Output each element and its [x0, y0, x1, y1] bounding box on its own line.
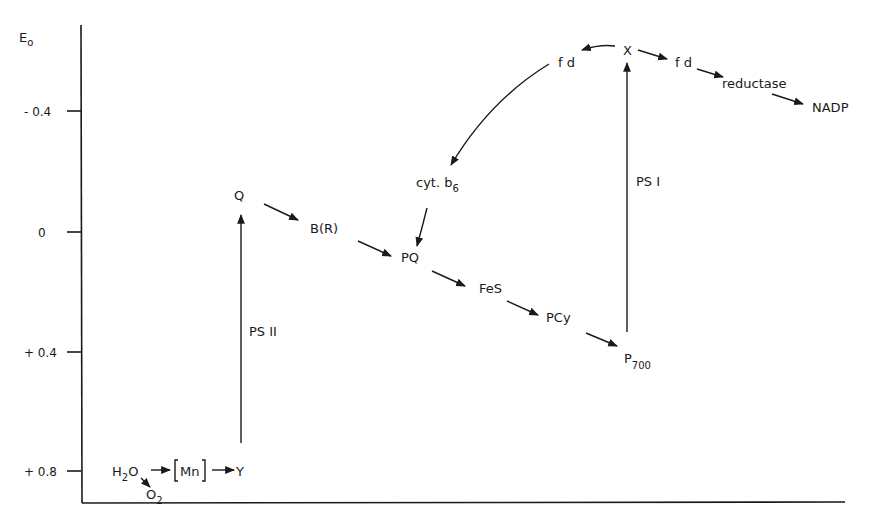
- tick-label: + 0.8: [24, 465, 57, 479]
- h2o-label: H2O: [112, 464, 138, 483]
- nadp-reduction: f d reductase NADP: [638, 50, 849, 115]
- arrow-q-br: [264, 204, 298, 220]
- arrow-x-fd-cyclic: [582, 46, 615, 51]
- tick-label: + 0.4: [24, 346, 57, 360]
- cytb6-label: cyt. b6: [416, 175, 459, 194]
- x-label: X: [623, 43, 632, 58]
- electron-transport-chain: Q B(R) PQ FeS PCy P700: [234, 188, 651, 371]
- ps2-label: PS II: [249, 324, 277, 339]
- photosystem-1: PS I X: [623, 43, 660, 332]
- mn-bracket-left: [175, 460, 178, 481]
- fes-label: FeS: [479, 281, 502, 296]
- fd-forward-label: f d: [675, 55, 692, 70]
- water-oxidation: H2O O2 Mn Y: [112, 460, 244, 506]
- arrow-pcy-p700: [586, 333, 617, 346]
- arrow-br-pq: [358, 241, 391, 256]
- p700-label: P700: [624, 351, 651, 371]
- fd-cyclic-label: f d: [558, 55, 575, 70]
- y-axis: [81, 25, 82, 503]
- arrow-cytb6-pq: [417, 208, 427, 246]
- arrow-fes-pcy: [507, 301, 538, 315]
- br-label: B(R): [310, 221, 338, 236]
- pcy-label: PCy: [546, 310, 571, 325]
- tick-label: - 0.4: [24, 105, 51, 119]
- reductase-label: reductase: [722, 76, 787, 91]
- arrow-h2o-o2: [141, 478, 150, 487]
- axes: Eo - 0.4 0 + 0.4 + 0.8: [19, 25, 845, 503]
- mn-label: Mn: [180, 464, 199, 479]
- y-axis-label: Eo: [19, 30, 33, 48]
- pq-label: PQ: [401, 250, 419, 265]
- z-scheme-diagram: Eo - 0.4 0 + 0.4 + 0.8 H2O O2 Mn Y PS II…: [0, 0, 882, 526]
- cyclic-electron-flow: f d cyt. b6: [416, 46, 615, 247]
- arrow-fd-cytb6: [451, 64, 549, 165]
- photosystem-2: PS II: [241, 215, 277, 443]
- ps1-label: PS I: [636, 174, 660, 189]
- arrow-fd-reductase: [697, 69, 723, 77]
- mn-bracket-right: [202, 460, 205, 481]
- y-label: Y: [235, 464, 244, 479]
- arrow-pq-fes: [432, 271, 465, 286]
- arrow-reductase-nadp: [772, 94, 803, 104]
- arrow-x-fd: [638, 50, 667, 59]
- q-label: Q: [234, 188, 244, 203]
- tick-label: 0: [38, 226, 46, 240]
- nadp-label: NADP: [812, 100, 849, 115]
- x-axis: [82, 502, 845, 503]
